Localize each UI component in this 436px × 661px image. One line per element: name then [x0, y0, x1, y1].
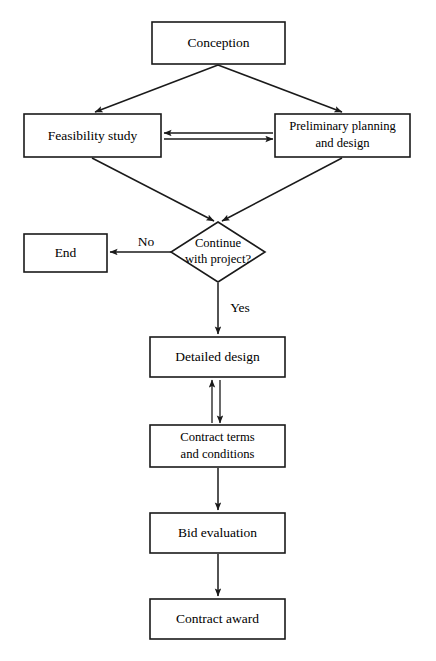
node-contract-award[interactable]: Contract award	[150, 599, 285, 639]
flowchart-canvas: No Yes	[0, 0, 436, 661]
edge-conception-to-feasibility	[95, 65, 218, 112]
edge-preliminary-to-decision	[222, 158, 342, 221]
node-label-conception: Conception	[187, 35, 249, 50]
edge-line-conception-preliminary	[218, 65, 342, 112]
node-label-end: End	[55, 245, 77, 260]
edge-detailed-design-contract-terms-bidirectional	[212, 380, 220, 423]
node-contract-terms-and-conditions[interactable]: Contract terms and conditions	[150, 425, 285, 467]
edge-line-conception-feasibility	[95, 65, 218, 112]
edge-feasibility-preliminary-bidirectional	[164, 133, 273, 139]
node-label-decision-line-1: Continue	[195, 236, 242, 250]
edge-feasibility-to-decision	[92, 158, 214, 221]
edge-label-no: No	[138, 234, 155, 249]
node-label-feasibility-study: Feasibility study	[48, 128, 138, 143]
node-label-decision-line-2: with project?	[185, 252, 252, 266]
node-feasibility-study[interactable]: Feasibility study	[24, 114, 161, 157]
node-label-contract-award: Contract award	[176, 611, 259, 626]
nodes-layer: Conception Feasibility study Preliminary…	[24, 22, 410, 639]
node-end[interactable]: End	[24, 234, 107, 272]
node-preliminary-planning-and-design[interactable]: Preliminary planning and design	[275, 114, 410, 157]
flowchart-svg: No Yes	[0, 0, 436, 661]
node-continue-with-project[interactable]: Continue with project?	[171, 222, 265, 282]
edge-decision-to-detailed-design: Yes	[218, 283, 250, 334]
node-bid-evaluation[interactable]: Bid evaluation	[150, 513, 285, 553]
node-label-bid-evaluation: Bid evaluation	[178, 525, 257, 540]
edge-line-preliminary-decision	[222, 158, 342, 221]
node-label-contract-terms-line-1: Contract terms	[180, 430, 255, 444]
edge-conception-to-preliminary	[218, 65, 342, 112]
node-label-preliminary-line-2: and design	[315, 136, 370, 150]
edge-label-yes: Yes	[230, 300, 250, 315]
node-detailed-design[interactable]: Detailed design	[150, 337, 285, 377]
edge-line-feasibility-decision	[92, 158, 214, 221]
edge-decision-to-end: No	[110, 234, 171, 252]
node-label-contract-terms-line-2: and conditions	[181, 447, 255, 461]
node-label-preliminary-line-1: Preliminary planning	[289, 119, 396, 133]
node-label-detailed-design: Detailed design	[175, 349, 260, 364]
node-conception[interactable]: Conception	[152, 22, 285, 64]
